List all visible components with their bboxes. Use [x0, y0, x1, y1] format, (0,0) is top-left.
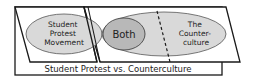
- overlap-region-label: Both: [112, 29, 135, 40]
- diagram-title: Student Protest vs. Counterculture: [45, 64, 192, 74]
- venn-foldable-diagram: Student Protest Movement Both The Counte…: [0, 0, 253, 82]
- left-region-label: Student Protest Movement: [44, 20, 84, 47]
